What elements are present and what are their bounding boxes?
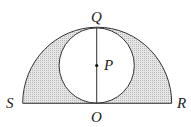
label-Q: Q: [91, 9, 102, 25]
geometry-diagram: Q P S R O: [0, 0, 191, 127]
label-P: P: [103, 57, 113, 73]
label-R: R: [176, 95, 186, 111]
center-point-P: [95, 64, 98, 67]
label-S: S: [6, 95, 14, 111]
label-O: O: [91, 109, 102, 125]
